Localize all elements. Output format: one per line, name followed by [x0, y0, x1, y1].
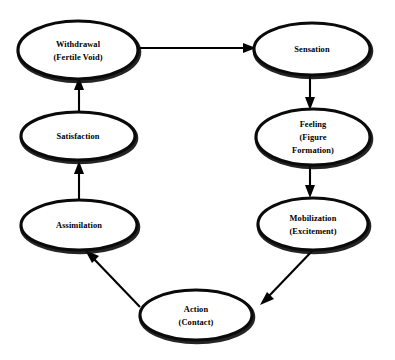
node-mobilization[interactable]: Mobilization (Excitement)	[258, 198, 369, 252]
node-label-line-2: (Fertile Void)	[53, 53, 102, 62]
node-label-line-1: Sensation	[294, 45, 330, 54]
cycle-of-experience-diagram: Withdrawal (Fertile Void) Sensation Feel…	[0, 0, 395, 360]
edge-line	[93, 258, 140, 307]
arrowhead-icon	[305, 185, 315, 198]
diagram-canvas: Withdrawal (Fertile Void) Sensation Feel…	[0, 0, 395, 360]
node-satisfaction[interactable]: Satisfaction	[21, 112, 136, 162]
edge-line	[268, 248, 315, 297]
node-label-line-1: Mobilization	[290, 214, 337, 223]
node-label-line-2: (Excitement)	[289, 227, 336, 236]
node-outline	[258, 198, 368, 250]
node-outline	[18, 21, 138, 79]
node-label-line-2: (Figure	[299, 133, 326, 142]
node-feeling[interactable]: Feeling (Figure Formation)	[256, 109, 371, 167]
edge-assimilation-to-satisfaction	[74, 161, 84, 200]
node-label-line-1: Feeling	[300, 120, 327, 129]
node-label-line-1: Withdrawal	[56, 40, 101, 49]
edge-withdrawal-to-sensation	[139, 43, 256, 53]
node-layer: Withdrawal (Fertile Void) Sensation Feel…	[18, 21, 371, 342]
edge-sensation-to-feeling	[305, 74, 315, 110]
node-sensation[interactable]: Sensation	[254, 23, 371, 77]
node-withdrawal[interactable]: Withdrawal (Fertile Void)	[18, 21, 139, 81]
node-label-line-1: Satisfaction	[56, 132, 99, 141]
edge-action-to-assimilation	[85, 250, 140, 307]
node-outline	[140, 290, 252, 340]
node-label-line-2: (Contact)	[179, 318, 214, 327]
node-label-line-3: Formation)	[292, 146, 334, 155]
node-label-line-1: Action	[184, 305, 209, 314]
node-action[interactable]: Action (Contact)	[140, 290, 253, 342]
edge-layer	[74, 43, 315, 307]
node-assimilation[interactable]: Assimilation	[21, 200, 138, 252]
node-label-line-1: Assimilation	[56, 221, 102, 230]
edge-mobilization-to-action	[260, 248, 315, 305]
